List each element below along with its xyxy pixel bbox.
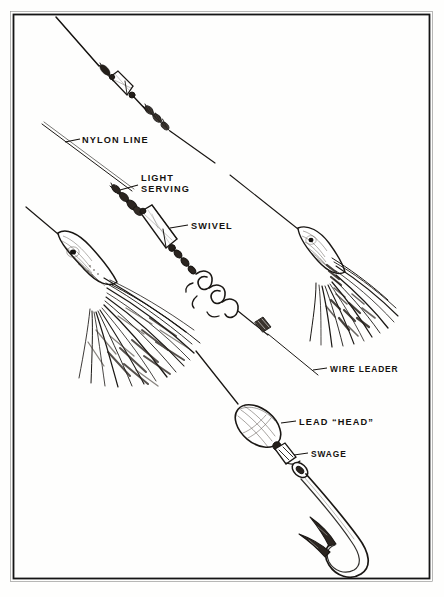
callout-label-lead-head: LEAD “HEAD” bbox=[299, 417, 374, 427]
figure-page: NYLON LINE LIGHT SERVING SWIVEL WIRE LEA… bbox=[0, 0, 444, 597]
callout-label-wire-leader: WIRE LEADER bbox=[330, 364, 399, 374]
callout-label-serving: SERVING bbox=[141, 184, 190, 194]
lure-rig-illustration: NYLON LINE LIGHT SERVING SWIVEL WIRE LEA… bbox=[0, 0, 444, 597]
callout-label-swage: SWAGE bbox=[311, 449, 347, 459]
callout-label-nylon-line: NYLON LINE bbox=[82, 135, 149, 145]
callout-label-light: LIGHT bbox=[141, 173, 174, 183]
illustration-plate: NYLON LINE LIGHT SERVING SWIVEL WIRE LEA… bbox=[0, 0, 444, 597]
callout-label-swivel: SWIVEL bbox=[191, 221, 233, 231]
